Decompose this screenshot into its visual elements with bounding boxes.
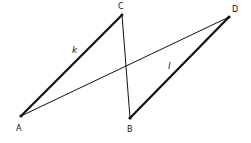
point-C-marker	[121, 14, 124, 17]
point-B-marker	[128, 116, 131, 119]
point-label-A: A	[16, 124, 22, 133]
point-label-C: C	[118, 2, 124, 11]
point-D-marker	[227, 15, 230, 18]
segment-BD	[130, 17, 229, 118]
point-label-D: D	[232, 5, 238, 14]
point-A-marker	[19, 114, 22, 117]
segment-AD	[21, 17, 229, 116]
point-label-B: B	[127, 125, 133, 134]
segment-AC	[21, 15, 122, 116]
geometry-diagram: A B C D k l	[0, 0, 251, 143]
segment-label-l: l	[168, 61, 171, 71]
segment-label-k: k	[72, 45, 78, 55]
segment-CB	[122, 15, 130, 118]
